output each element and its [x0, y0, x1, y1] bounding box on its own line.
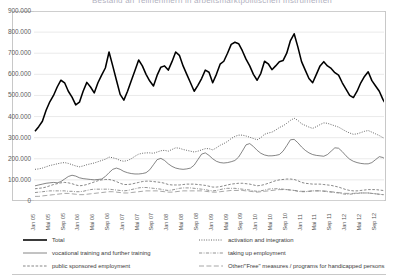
x-tick-label: Mai 05 [46, 214, 52, 231]
legend-label: Total [52, 237, 64, 243]
legend-line-swatch-icon [22, 261, 48, 271]
legend-column-left: Totalvocational training and further tra… [22, 233, 202, 272]
legend-label: vocational training and further training [52, 250, 151, 256]
series-line [35, 34, 384, 144]
x-tick-label: Mai 08 [179, 214, 185, 231]
x-tick-label: Mai 07 [135, 214, 141, 231]
legend-label: taking up employment [228, 250, 286, 256]
x-tick-label: Mai 09 [224, 214, 230, 231]
x-tick-label: Jan 05 [31, 214, 37, 231]
series-canvas [34, 11, 384, 201]
legend-item: Total [22, 233, 202, 246]
plot-area [34, 11, 384, 201]
x-tick-label: Mai 10 [268, 214, 274, 231]
y-tick-label: 0 [27, 198, 31, 204]
x-tick-label: Mai 12 [357, 214, 363, 231]
x-tick-label: Sep 05 [61, 213, 67, 231]
legend-label: Other/"Free" measures / programs for han… [228, 263, 384, 269]
x-tick-label: Sep 06 [105, 213, 111, 231]
y-tick-label: 900.000 [8, 8, 31, 14]
legend-label: public sponsored employment [52, 263, 130, 269]
x-tick-label: Sep 10 [283, 213, 289, 231]
chart-title-strip: Bestand an Teilnehmern in arbeitsmarktpo… [0, 0, 398, 9]
y-tick-label: 300.000 [8, 134, 31, 140]
x-tick-label: Mai 11 [313, 215, 319, 231]
x-axis: Jan 05Mai 05Sep 05Jan 06Mai 06Sep 06Jan … [34, 203, 384, 231]
x-tick-label: Sep 08 [194, 213, 200, 231]
page-title: Bestand an Teilnehmern in arbeitsmarktpo… [92, 0, 332, 5]
x-tick-label: Sep 07 [150, 213, 156, 231]
line-chart: Bestand an Teilnehmern in arbeitsmarktpo… [0, 0, 398, 278]
legend-column-right: activation and integrationtaking up empl… [198, 233, 378, 272]
x-tick-label: Sep 11 [328, 214, 334, 231]
x-tick-label: Jan 06 [76, 214, 82, 231]
x-tick-label: Jan 08 [165, 214, 171, 231]
legend-line-swatch-icon [198, 261, 224, 271]
legend-line-swatch-icon [198, 235, 224, 245]
y-tick-label: 200.000 [8, 156, 31, 162]
series-line [35, 139, 384, 185]
y-tick-label: 100.000 [8, 177, 31, 183]
chart-legend: Totalvocational training and further tra… [12, 233, 386, 275]
legend-label: activation and integration [228, 237, 294, 243]
x-tick-label: Sep 12 [372, 213, 378, 231]
x-tick-label: Jan 10 [254, 214, 260, 231]
y-tick-label: 700.000 [8, 50, 31, 56]
x-tick-label: Jan 07 [120, 214, 126, 231]
y-tick-label: 400.000 [8, 113, 31, 119]
legend-item: public sponsored employment [22, 259, 202, 272]
x-tick-label: Jan 12 [342, 214, 348, 231]
y-tick-label: 800.000 [8, 29, 31, 35]
legend-item: activation and integration [198, 233, 378, 246]
legend-item: Other/"Free" measures / programs for han… [198, 259, 378, 272]
x-tick-label: Mai 06 [91, 214, 97, 231]
legend-line-swatch-icon [22, 248, 48, 258]
x-tick-label: Sep 09 [239, 213, 245, 231]
legend-line-swatch-icon [198, 248, 224, 258]
y-tick-label: 600.000 [8, 71, 31, 77]
series-line [35, 190, 384, 197]
legend-item: vocational training and further training [22, 246, 202, 259]
legend-line-swatch-icon [22, 235, 48, 245]
series-line [35, 179, 384, 192]
y-tick-label: 500.000 [8, 92, 31, 98]
legend-item: taking up employment [198, 246, 378, 259]
series-line [35, 118, 384, 169]
x-tick-label: Jan 11 [298, 215, 304, 231]
x-tick-label: Jan 09 [209, 214, 215, 231]
